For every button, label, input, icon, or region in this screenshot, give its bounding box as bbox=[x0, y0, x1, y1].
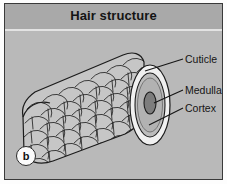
panel-badge: b bbox=[17, 147, 36, 166]
label-cuticle: Cuticle bbox=[185, 53, 217, 65]
figure-header: Hair structure bbox=[5, 4, 222, 31]
label-cortex: Cortex bbox=[185, 102, 217, 114]
page-title: Hair structure bbox=[5, 8, 222, 23]
panel-badge-label: b bbox=[23, 150, 30, 162]
hair-structure-figure: Hair structure bbox=[0, 0, 227, 184]
hair-cross-section-end bbox=[130, 65, 170, 145]
layer-labels: Cuticle Medulla Cortex bbox=[185, 53, 222, 114]
diagram-canvas: Cuticle Medulla Cortex b bbox=[5, 33, 222, 179]
figure-frame: Hair structure bbox=[4, 3, 223, 180]
label-medulla: Medulla bbox=[185, 84, 222, 96]
